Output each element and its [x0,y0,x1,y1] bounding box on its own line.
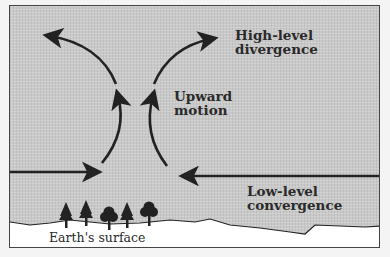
label-line: High-level [235,28,318,42]
diagram-frame: High-level divergence Upward motion Low-… [9,5,380,248]
label-upward-motion: Upward motion [174,89,232,117]
label-line: motion [174,103,232,117]
high-level-outflow-right-arrow [154,39,211,84]
label-line: Low-level [247,184,342,198]
high-level-outflow-left-arrow [50,36,116,84]
upward-right-arrow [150,96,167,166]
label-line: convergence [247,198,342,212]
label-low-level-convergence: Low-level convergence [247,184,342,212]
label-line: divergence [235,42,318,56]
label-line: Upward [174,89,232,103]
label-earths-surface: Earth's surface [49,230,145,245]
label-high-level-divergence: High-level divergence [235,28,318,56]
upward-left-arrow [102,96,121,163]
